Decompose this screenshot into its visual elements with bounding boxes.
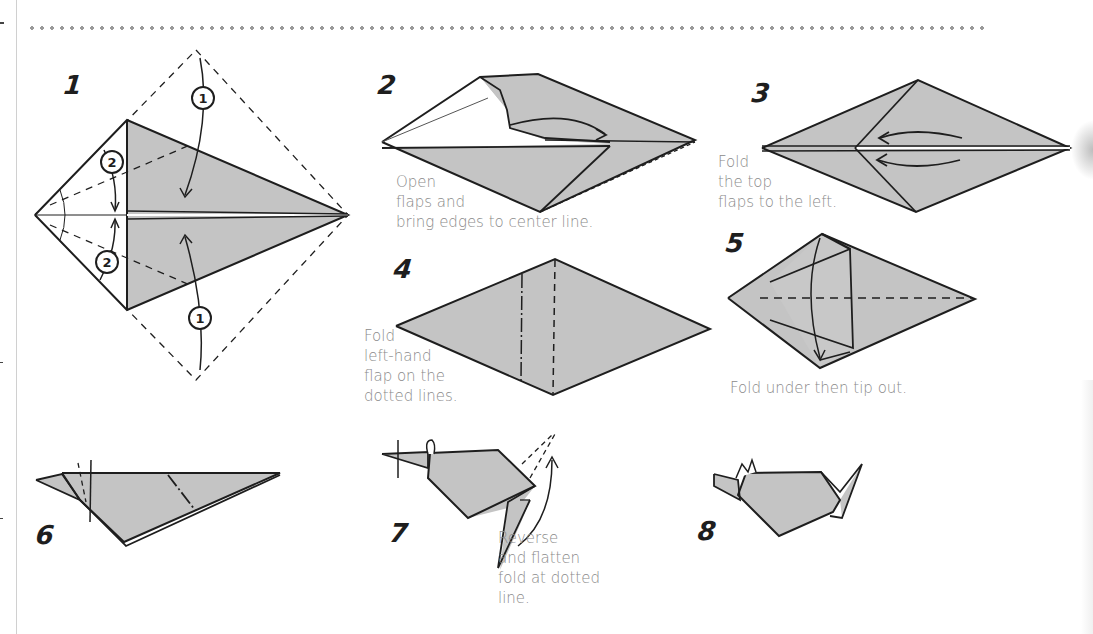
fold-marker-2-bottom: 2 <box>96 251 118 273</box>
step-6-diagram <box>0 420 300 570</box>
fold-marker-1-bottom: 1 <box>189 307 211 329</box>
fold-marker-2-top: 2 <box>101 151 123 173</box>
svg-text:2: 2 <box>102 255 111 270</box>
fold-marker-1-top: 1 <box>192 87 214 109</box>
svg-text:1: 1 <box>195 311 204 326</box>
svg-text:1: 1 <box>198 91 207 106</box>
page-edge-gradient <box>1081 380 1093 634</box>
step-5-diagram <box>710 220 990 370</box>
step-7-caption: Reverse and flatten fold at dotted line. <box>498 528 600 608</box>
step-8-diagram <box>690 440 890 560</box>
step-2-caption: Open flaps and bring edges to center lin… <box>396 172 593 232</box>
svg-text:2: 2 <box>107 155 116 170</box>
step-3-diagram <box>700 60 1093 240</box>
step-4-caption: Fold left-hand flap on the dotted lines. <box>364 326 458 406</box>
step-3-caption: Fold the top flaps to the left. <box>718 152 837 212</box>
step-5-caption: Fold under then tip out. <box>730 378 907 398</box>
dotted-separator <box>27 26 987 30</box>
margin-tick <box>0 22 4 24</box>
step-1-diagram: 1 1 2 2 <box>0 40 360 390</box>
